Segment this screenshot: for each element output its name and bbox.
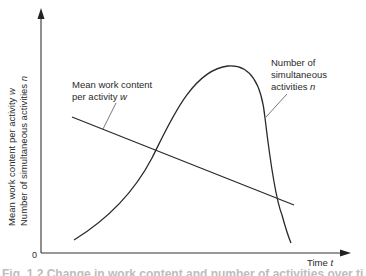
annotation-w-line2: per activity w (72, 91, 128, 102)
annotation-n-line3: activities n (271, 81, 315, 92)
annotation-n-line2: simultaneous (271, 69, 327, 80)
annotation-w-line1: Mean work content (72, 79, 153, 90)
y-axis-arrow-icon (38, 8, 45, 19)
y-axis-label-w: Mean work content per activity w (6, 87, 17, 226)
origin-label: 0 (32, 250, 37, 260)
series-w-line (72, 117, 294, 205)
annotation-w-leader (103, 103, 116, 129)
annotation-n-leader (266, 94, 287, 117)
annotation-n-line1: Number of (271, 57, 316, 68)
figure-caption: Fig. 1.2 Change in work content and numb… (2, 266, 364, 276)
y-axis-label-n: Number of simultaneous activities n (18, 76, 29, 226)
x-axis-arrow-icon (340, 250, 351, 257)
